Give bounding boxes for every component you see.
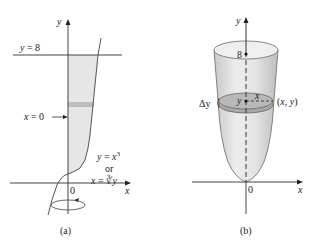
b-x-axis-label: x <box>297 184 303 195</box>
b-y-axis-label: y <box>235 15 241 26</box>
b-point-label: (x, y) <box>277 96 298 108</box>
x0-pointer-arrow-icon <box>63 115 68 119</box>
a-caption: (a) <box>60 225 71 237</box>
y-axis-b-arrow-icon <box>244 17 249 23</box>
a-x0-label: x = 0 <box>23 111 44 122</box>
b-dy-label: Δy <box>199 98 210 109</box>
b-caption: (b) <box>240 225 252 237</box>
b-origin-label: 0 <box>248 184 253 195</box>
a-y-axis-label: y <box>56 16 62 27</box>
solid-of-revolution-diagram: y y = 8 x = 0 y = x3 or x = ∛y 0 x (a) y… <box>0 0 321 249</box>
b-point-y-label: y <box>236 95 242 106</box>
a-curve-label-1: y = x3 <box>96 150 121 162</box>
shaded-region <box>68 55 98 174</box>
y-axis-arrow-icon <box>66 19 71 25</box>
a-x-axis-label: x <box>124 185 130 196</box>
point-8 <box>244 52 247 55</box>
b-radius-label: x <box>254 90 260 101</box>
a-curve-label-or: or <box>105 163 114 174</box>
a-line-label: y = 8 <box>19 42 40 53</box>
b-top-label: 8 <box>237 49 242 60</box>
a-origin-label: 0 <box>70 185 75 196</box>
a-curve-label-2: x = ∛y <box>90 174 117 186</box>
horizontal-strip <box>68 102 94 107</box>
